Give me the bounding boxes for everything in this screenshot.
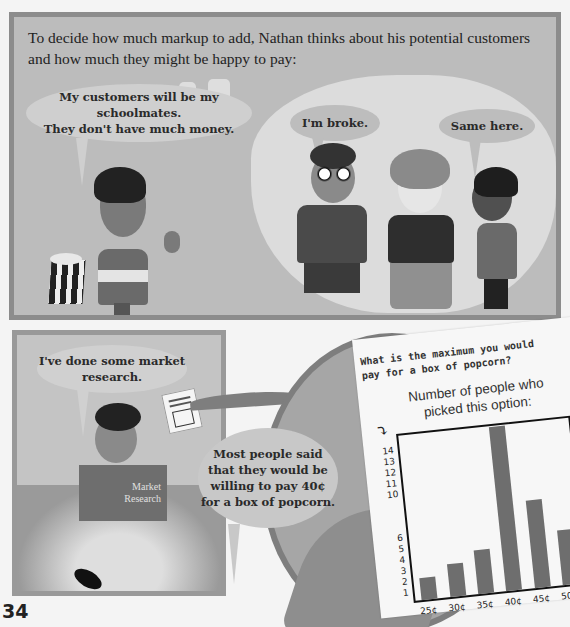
market-research-book: Market Research [79,465,167,521]
y-tick-label: 2 [401,577,408,588]
speech-text: They don't have much money. [44,121,234,137]
glasses-icon [315,166,353,182]
raised-hand [164,231,180,253]
x-tick-label: 45¢ [528,592,555,605]
speech-text: that they would be [208,462,328,478]
speech-bubble-nathan: My customers will be my schoolmates. The… [26,84,252,142]
y-tick-label: 3 [400,566,407,577]
y-tick-label: 14 [382,445,394,456]
x-tick-label: 50¢ [556,589,570,602]
y-tick-label: 12 [384,467,396,478]
bar-25¢ [419,577,437,601]
bar-chart-plot [396,416,570,603]
speech-text: Same here. [451,118,523,134]
speech-text: willing to pay 40¢ [211,478,326,494]
bubble-tail [228,524,240,584]
speech-text: My customers will be my schoolmates. [26,89,252,121]
bubble-tail [76,138,88,186]
y-tick-label: 5 [398,544,405,555]
x-tick-label: 30¢ [444,601,471,614]
x-tick-label: 35¢ [472,598,499,611]
y-tick-label: 1 [402,587,409,598]
nathan-hair [95,403,141,431]
y-tick-label: 11 [385,478,397,489]
y-tick-label: 6 [397,533,404,544]
bottom-left-comic-panel: I've done some market research. Market R… [12,330,226,596]
bar-35¢ [473,549,494,594]
y-tick-label: 4 [399,555,406,566]
y-axis-label: Number of people who picked this option: [395,373,558,424]
mini-chart-icon [161,388,203,434]
speech-text: Most people said [213,446,322,462]
y-tick-label: 10 [386,489,398,500]
x-tick-label: 40¢ [500,595,527,608]
bar-50¢ [557,529,570,585]
intro-text: To decide how much markup to add, Nathan… [28,27,548,69]
popcorn-box-icon [48,260,85,304]
survey-chart-card: What is the maximum you would pay for a … [352,317,570,619]
speech-text: for a box of popcorn. [201,494,335,510]
bar-30¢ [446,563,465,597]
page-number: 34 [2,600,28,622]
speech-bubble-kid3: Same here. [439,109,535,143]
bar-45¢ [525,499,550,588]
top-comic-panel: To decide how much markup to add, Nathan… [9,12,561,320]
speech-text: I'm broke. [302,115,368,131]
bar-40¢ [489,425,522,591]
bubble-tail [77,389,89,437]
speech-bubble-kid1: I'm broke. [290,105,380,141]
speech-text: I've done some market [39,353,185,369]
speech-text: research. [82,369,142,385]
speech-bubble-research: I've done some market research. [37,345,187,393]
y-tick-label: 13 [383,456,395,467]
popcorn-top [50,253,82,265]
speech-bubble-survey-result: Most people said that they would be will… [198,428,338,528]
